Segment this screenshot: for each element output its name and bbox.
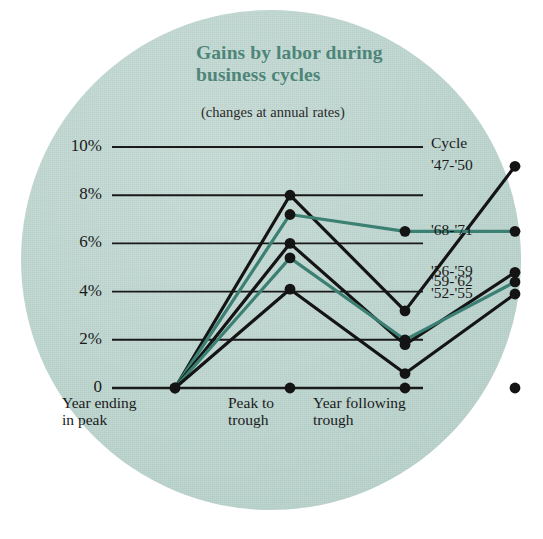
data-point bbox=[510, 277, 521, 288]
data-point bbox=[510, 161, 521, 172]
legend-item--47--50[interactable]: '47-'50 bbox=[431, 156, 473, 174]
data-point bbox=[285, 252, 296, 263]
data-point bbox=[285, 238, 296, 249]
legend-title: Cycle bbox=[431, 134, 467, 152]
data-point bbox=[510, 267, 521, 278]
data-point bbox=[285, 209, 296, 220]
legend-item--68--71[interactable]: '68-'71 bbox=[431, 221, 473, 239]
x-tick-label-line: in peak bbox=[62, 411, 137, 428]
axis-marker bbox=[285, 383, 296, 394]
x-tick-label-line: Year ending bbox=[62, 394, 137, 411]
y-tick-label-8pct: 8% bbox=[42, 184, 102, 204]
axis-marker bbox=[400, 383, 411, 394]
data-point bbox=[510, 289, 521, 300]
data-point bbox=[285, 190, 296, 201]
x-tick-label-1: Peak totrough bbox=[228, 394, 274, 428]
data-point bbox=[285, 284, 296, 295]
y-tick-label-10pct: 10% bbox=[42, 136, 102, 156]
x-tick-label-0: Year endingin peak bbox=[62, 394, 137, 428]
legend-item--52--55[interactable]: '52-'55 bbox=[431, 284, 473, 302]
y-tick-label-2pct: 2% bbox=[42, 329, 102, 349]
x-tick-label-line: trough bbox=[313, 411, 406, 428]
axis-marker bbox=[170, 383, 181, 394]
x-tick-label-line: Year following bbox=[313, 394, 406, 411]
y-tick-label-6pct: 6% bbox=[42, 232, 102, 252]
y-tick-label-4pct: 4% bbox=[42, 281, 102, 301]
data-point bbox=[400, 334, 411, 345]
x-tick-label-line: Peak to bbox=[228, 394, 274, 411]
chart-canvas: Gains by labor during business cycles (c… bbox=[0, 0, 543, 539]
x-tick-label-line: trough bbox=[228, 411, 274, 428]
data-point bbox=[400, 226, 411, 237]
data-point bbox=[400, 305, 411, 316]
data-point bbox=[400, 368, 411, 379]
axis-marker bbox=[510, 383, 521, 394]
data-point bbox=[510, 226, 521, 237]
x-tick-label-2: Year followingtrough bbox=[313, 394, 406, 428]
